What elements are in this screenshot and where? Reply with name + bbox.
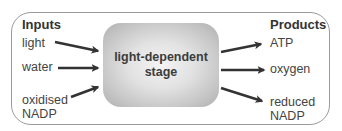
arrows-layer bbox=[0, 0, 342, 131]
arrow-nadp-in bbox=[71, 87, 98, 97]
arrow-nadp-out bbox=[221, 88, 262, 101]
arrow-light-in bbox=[55, 42, 98, 51]
arrow-atp-out bbox=[221, 44, 261, 52]
